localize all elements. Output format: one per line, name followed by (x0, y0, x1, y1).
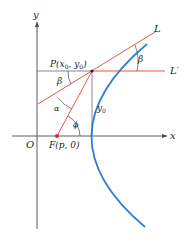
tangent-line-label: L (153, 23, 161, 34)
phi-label: ϕ (73, 120, 79, 129)
alpha-label: α (54, 104, 60, 113)
point-P-label: P(x0, y0) (49, 59, 87, 70)
y-axis-label: y (32, 9, 39, 20)
origin-label: O (26, 139, 34, 150)
y0-label: y0 (96, 103, 106, 114)
x-axis-label: x (170, 130, 176, 141)
beta-right-label: β (137, 54, 143, 64)
beta-left-label: β (56, 76, 62, 86)
x-axis-arrow-icon (162, 134, 168, 138)
y-axis-arrow-icon (35, 21, 39, 27)
horizontal-line-label: L′ (169, 65, 180, 76)
parabola-reflection-diagram: y x O P(x0, y0) F(p, 0) L L′ β β α ϕ y0 (0, 0, 187, 242)
alpha-arc (58, 98, 72, 109)
focus-label: F(p, 0) (48, 140, 80, 150)
focus-point-F (55, 134, 59, 138)
point-P (91, 70, 94, 73)
beta-left-arc (68, 71, 71, 84)
